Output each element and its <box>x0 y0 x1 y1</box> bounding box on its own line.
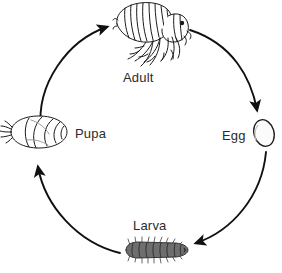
stage-label-adult: Adult <box>123 70 154 85</box>
stage-label-egg: Egg <box>222 128 246 143</box>
stage-label-larva: Larva <box>133 218 167 233</box>
arrow-egg-to-larva <box>196 152 266 243</box>
arrow-adult-to-egg <box>190 30 257 110</box>
arrow-larva-to-pupa <box>38 167 120 253</box>
stage-label-pupa: Pupa <box>75 126 106 141</box>
flea-egg-icon <box>250 116 278 154</box>
flea-pupa-icon <box>0 110 72 158</box>
flea-adult-icon <box>108 0 194 72</box>
flea-life-cycle-diagram: Adult Egg Larva Pupa <box>0 0 282 273</box>
clipped-caption-strip <box>2 265 132 273</box>
